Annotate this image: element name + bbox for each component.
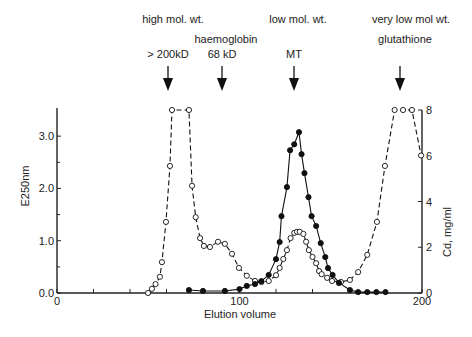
e250-data-point (288, 236, 293, 241)
e250-data-point (149, 286, 154, 291)
e250-data-point (314, 261, 319, 266)
annotation-label: high mol. wt. (142, 13, 204, 25)
e250-data-point (193, 215, 198, 220)
down-arrow-head-icon (395, 78, 405, 91)
cd-data-point (383, 289, 388, 294)
e250-data-point (281, 256, 286, 261)
down-arrow-head-icon (163, 78, 173, 91)
e250-data-point (201, 243, 206, 248)
x-tick-label: 0 (54, 295, 60, 307)
data-series (145, 107, 423, 295)
e250-data-point (244, 273, 249, 278)
e250-data-point (186, 107, 191, 112)
x-axis-label: Elution volume (204, 308, 276, 320)
cd-data-point (237, 287, 242, 292)
down-arrow-head-icon (289, 78, 299, 91)
e250-data-point (347, 277, 352, 282)
annotation-label: very low mol wt. (372, 13, 450, 25)
cd-data-point (330, 272, 335, 277)
cd-data-point (314, 223, 319, 228)
e250-data-point (356, 269, 361, 274)
cd-data-point (186, 287, 191, 292)
cd-data-point (279, 214, 284, 219)
annotation-label: low mol. wt. (269, 13, 326, 25)
y-axis-label: E250nm (19, 166, 31, 207)
cd-data-point (306, 195, 311, 200)
e250-data-point (304, 239, 309, 244)
e250-data-point (207, 244, 212, 249)
cd-data-point (222, 288, 227, 293)
e250-data-point (306, 248, 311, 253)
e250-data-point (365, 252, 370, 257)
cd-data-point (323, 254, 328, 259)
e250-data-point (329, 278, 334, 283)
cd-data-point (296, 130, 301, 135)
e250-data-point (159, 260, 164, 265)
cd-data-point (336, 280, 341, 285)
e250-data-point (301, 231, 306, 236)
cd-data-point (299, 152, 304, 157)
annotation-label: MT (286, 48, 302, 60)
e250-data-point (222, 241, 227, 246)
y-tick-label: 1.0 (39, 235, 54, 247)
e250-data-point (273, 273, 278, 278)
e250-data-point (325, 275, 330, 280)
cd-data-point (325, 265, 330, 270)
y2-tick-label: 4 (426, 196, 432, 208)
e250-data-point (319, 272, 324, 277)
cd-line (189, 132, 386, 292)
cd-data-point (200, 288, 205, 293)
e250-data-point (215, 239, 220, 244)
elution-chart: high mol. wt.> 200kDhaemoglobin68 kDlow … (0, 0, 472, 337)
y2-tick-label: 8 (426, 104, 432, 116)
cd-data-point (365, 289, 370, 294)
e250-data-point (418, 153, 423, 158)
cd-data-point (318, 241, 323, 246)
e250-data-point (400, 107, 405, 112)
down-arrow-head-icon (217, 78, 227, 91)
e250-data-point (392, 107, 397, 112)
annotation-label: haemoglobin (195, 33, 258, 45)
cd-data-point (356, 289, 361, 294)
e250-data-point (374, 219, 379, 224)
e250-data-point (157, 274, 162, 279)
e250-data-point (266, 278, 271, 283)
axes: 01002000.01.02.03.002468 (39, 104, 432, 307)
annotation-label: 68 kD (208, 48, 237, 60)
cd-data-point (292, 142, 297, 147)
x-tick-label: 100 (230, 295, 248, 307)
y-tick-label: 0.0 (39, 287, 54, 299)
cd-data-point (277, 239, 282, 244)
cd-data-point (266, 272, 271, 277)
e250-data-point (167, 163, 172, 168)
cd-data-point (374, 289, 379, 294)
cd-data-point (287, 148, 292, 153)
cd-data-point (309, 214, 314, 219)
y2-tick-label: 6 (426, 150, 432, 162)
annotation-label: > 200kD (147, 48, 188, 60)
e250-data-point (236, 265, 241, 270)
cd-data-point (252, 281, 257, 286)
y2-axis-label: Cd, mg/ml (441, 207, 453, 257)
e250-data-point (382, 163, 387, 168)
e250-data-point (409, 107, 414, 112)
y2-tick-label: 2 (426, 241, 432, 253)
e250-data-point (145, 290, 150, 295)
e250-data-point (189, 183, 194, 188)
e250-data-point (153, 282, 158, 287)
annotation-label: glutathione (378, 33, 432, 45)
cd-data-point (302, 171, 307, 176)
y2-tick-label: 0 (426, 287, 432, 299)
y-tick-label: 2.0 (39, 182, 54, 194)
cd-data-point (244, 283, 249, 288)
cd-data-point (284, 184, 289, 189)
cd-data-point (347, 287, 352, 292)
e250-data-point (163, 219, 168, 224)
annotations: high mol. wt.> 200kDhaemoglobin68 kDlow … (142, 13, 450, 91)
e250-data-point (284, 248, 289, 253)
e250-data-point (169, 107, 174, 112)
cd-data-point (273, 257, 278, 262)
e250-data-point (197, 236, 202, 241)
e250-data-point (229, 251, 234, 256)
y-tick-label: 3.0 (39, 130, 54, 142)
